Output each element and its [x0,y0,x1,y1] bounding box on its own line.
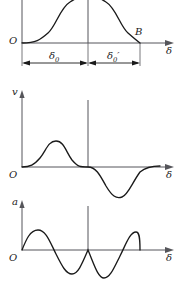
dimension-arrow-left-start [22,61,30,66]
panel-displacement [22,0,174,66]
dimension-arrow-right-end [132,61,140,66]
displacement-x-axis-label: δ [166,45,172,56]
acceleration-x-axis-label: δ [166,252,172,263]
acceleration-curve [22,230,140,278]
delta0-subscript: 0 [55,56,59,64]
velocity-origin-label: O [9,169,17,180]
panel-acceleration [19,200,174,278]
figure-canvas: O B δ δ0 δ0′ v O δ a O δ [0,0,187,306]
velocity-curve [22,141,160,198]
delta0-prime-mark: ′ [117,50,119,61]
acceleration-origin-label: O [9,252,17,263]
acceleration-y-axis-label: a [12,196,18,207]
dimension-label-delta0-prime: δ0′ [107,50,120,64]
dimension-label-delta0: δ0 [49,50,59,64]
dimension-arrow-left-end [80,61,88,66]
velocity-y-axis-arrowhead [19,90,24,98]
acceleration-y-axis-arrowhead [19,200,24,208]
point-b-label: B [135,26,142,37]
displacement-curve [22,0,140,43]
kinematic-plots-svg [0,0,187,306]
dimension-arrow-right-start [88,61,96,66]
velocity-y-axis-label: v [12,86,18,97]
displacement-origin-label: O [9,35,17,46]
velocity-x-axis-label: δ [166,169,172,180]
panel-velocity [19,90,174,198]
